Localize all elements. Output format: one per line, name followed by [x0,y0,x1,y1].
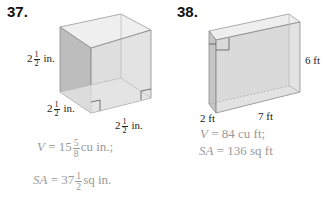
prism-figure [209,14,300,113]
problem-38-surface-area-answer: SA = 136 sq ft [199,143,273,159]
problem-38-volume-answer: V = 84 cu ft; [200,126,265,142]
problem-37-surface-area-answer: SA = 3712sq in. [33,171,111,192]
cube-width-label: 212 in. [115,118,143,136]
prism-depth-label: 2 ft [200,112,215,124]
cube-depth-label: 212 in. [47,101,75,119]
cube-height-label: 212 in. [27,51,55,69]
problem-37-volume-answer: V = 1558cu in.; [37,138,113,159]
cube-figure [60,14,151,113]
prism-height-label: 6 ft [305,54,320,66]
figures [0,0,321,200]
prism-length-label: 7 ft [258,110,273,122]
